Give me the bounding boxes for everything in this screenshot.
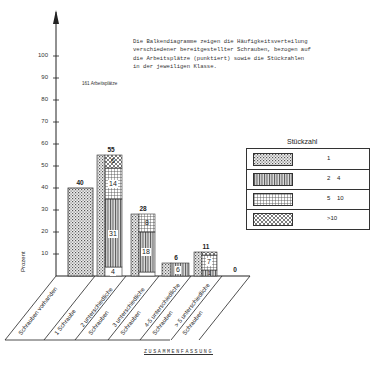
- y-tick-80: 80: [28, 96, 48, 102]
- bar-2-unterschiedliche: [131, 214, 155, 276]
- y-axis: [53, 10, 59, 276]
- legend-item-1: 1: [247, 149, 369, 170]
- y-tick-30: 30: [28, 206, 48, 212]
- y-tick-40: 40: [28, 184, 48, 190]
- segment-label: 14: [108, 180, 118, 188]
- y-tick-90: 90: [28, 74, 48, 80]
- description-text: Die Balkendiagramme zeigen die Häufigkei…: [133, 38, 373, 71]
- workplace-count-note: 161 Arbeitsplätze: [82, 81, 117, 86]
- legend-item-5-10: 5 10: [247, 189, 369, 210]
- segment-label: 18: [141, 248, 151, 256]
- legend-title: Stückzahl: [287, 138, 317, 145]
- bar-total-label: 40: [65, 179, 95, 186]
- legend-item-2-4: 2 4: [247, 169, 369, 190]
- legend: 1 2 4 5 10 >10: [246, 148, 370, 230]
- segment-label: 6: [110, 157, 116, 165]
- bar-total-label: 0: [220, 266, 250, 273]
- crosshatch-pattern-icon: [253, 213, 293, 226]
- summary-heading: ZUSAMMENFASSUNG: [144, 349, 213, 355]
- segment-label: 8: [144, 219, 150, 227]
- y-tick-70: 70: [28, 118, 48, 124]
- dots-pattern-icon: [253, 153, 293, 166]
- segment-label: 7: [206, 258, 212, 266]
- grid-pattern-icon: [253, 193, 293, 206]
- y-tick-100: 100: [28, 52, 48, 58]
- bar-total-label: 6: [161, 254, 191, 261]
- y-tick-50: 50: [28, 162, 48, 168]
- y-tick-20: 20: [28, 228, 48, 234]
- bar-total-label: 55: [96, 146, 126, 153]
- legend-item-gt10: >10: [247, 209, 369, 229]
- bar-total-label: 11: [191, 243, 221, 250]
- bar-1-schraube: [97, 155, 122, 276]
- y-tick-60: 60: [28, 140, 48, 146]
- segment-label: 4: [110, 268, 116, 276]
- bar-schrauben-vorhanden: [68, 188, 93, 276]
- vertical-lines-pattern-icon: [253, 173, 293, 186]
- segment-label: 6: [175, 266, 181, 274]
- segment-label: 31: [108, 230, 118, 238]
- bar-total-label: 28: [128, 205, 158, 212]
- segment-label: 1: [207, 269, 212, 277]
- y-tick-10: 10: [28, 250, 48, 256]
- arrow-up-icon: [53, 10, 59, 24]
- y-axis-label: Prozent: [20, 251, 26, 272]
